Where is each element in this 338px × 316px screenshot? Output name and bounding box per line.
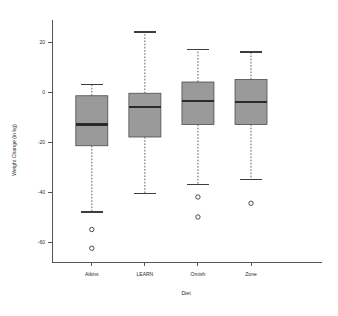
x-axis-title: Diet <box>181 290 191 296</box>
boxplot-canvas: 200-20-40-60 AtkinsLEARNOrnishZone Weigh… <box>0 0 338 316</box>
boxplot-figure: 200-20-40-60 AtkinsLEARNOrnishZone Weigh… <box>0 0 338 316</box>
iqr-box <box>76 96 108 146</box>
x-tick-label: Atkins <box>85 271 99 277</box>
y-tick-label: 20 <box>39 39 45 45</box>
iqr-box <box>129 93 161 137</box>
x-tick-label: LEARN <box>137 271 154 277</box>
y-tick-label: -60 <box>38 239 45 245</box>
y-tick-label: -20 <box>38 139 45 145</box>
figure-background <box>0 0 338 316</box>
y-axis-title: Weight Change (in kg) <box>11 124 17 176</box>
x-tick-label: Ornish <box>191 271 206 277</box>
x-tick-label: Zone <box>245 271 257 277</box>
y-tick-label: -40 <box>38 189 45 195</box>
iqr-box <box>182 82 214 125</box>
y-tick-label: 0 <box>42 89 45 95</box>
